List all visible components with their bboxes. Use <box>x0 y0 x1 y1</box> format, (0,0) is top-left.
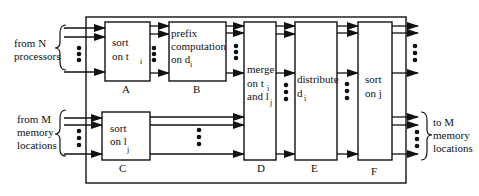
block-f-text-1: sort <box>365 73 382 85</box>
left-brace-icon <box>55 25 66 70</box>
block-e: distribute d i E <box>295 22 339 174</box>
output-label-line3: locations <box>433 142 473 154</box>
block-b-label: B <box>193 83 200 95</box>
block-b: prefix computation on d i B <box>169 22 226 95</box>
block-d-text-2: on t <box>247 77 264 89</box>
block-b-text-3: on d <box>171 53 191 65</box>
block-d-text-1: merge <box>247 63 274 75</box>
block-c-subscript: j <box>126 145 129 154</box>
block-a-text-1: sort <box>112 36 129 48</box>
block-d: merge on t i and l j D <box>244 22 276 174</box>
memory-outputs: to M memory locations <box>392 112 473 160</box>
block-a-text-2: on t <box>112 50 129 62</box>
block-e-text-2: d <box>297 87 303 99</box>
block-a: sort on t i A <box>105 22 150 95</box>
parallel-sort-merge-diagram: from N processors from M memory location… <box>0 0 479 196</box>
processor-inputs: from N processors <box>14 25 105 72</box>
block-d-label: D <box>257 162 265 174</box>
block-f: sort on j F <box>358 22 392 177</box>
block-f-label: F <box>371 165 377 177</box>
memory-label-line2: memory <box>17 126 54 138</box>
memory-label-line3: locations <box>17 139 57 151</box>
block-c-text-2: on l <box>110 135 127 147</box>
block-b-text-1: prefix <box>171 27 198 39</box>
right-brace-icon <box>421 112 432 160</box>
block-d-text-3: and l <box>247 90 269 102</box>
output-label-line2: memory <box>433 129 470 141</box>
block-f-text-2: on j <box>365 87 382 99</box>
block-e-text-1: distribute <box>297 73 339 85</box>
block-d-subscript-j: j <box>269 98 272 107</box>
block-c: sort on l j C <box>102 112 150 174</box>
block-c-text-1: sort <box>110 122 127 134</box>
block-e-label: E <box>311 162 318 174</box>
processors-label-line1: from N <box>14 37 46 49</box>
memory-label-line1: from M <box>17 113 51 125</box>
processors-label-line2: processors <box>14 50 60 62</box>
memory-inputs: from M memory locations <box>17 110 102 156</box>
block-b-text-2: computation <box>171 40 226 52</box>
block-c-label: C <box>119 162 126 174</box>
output-label-line1: to M <box>433 116 454 128</box>
block-a-label: A <box>122 83 130 95</box>
